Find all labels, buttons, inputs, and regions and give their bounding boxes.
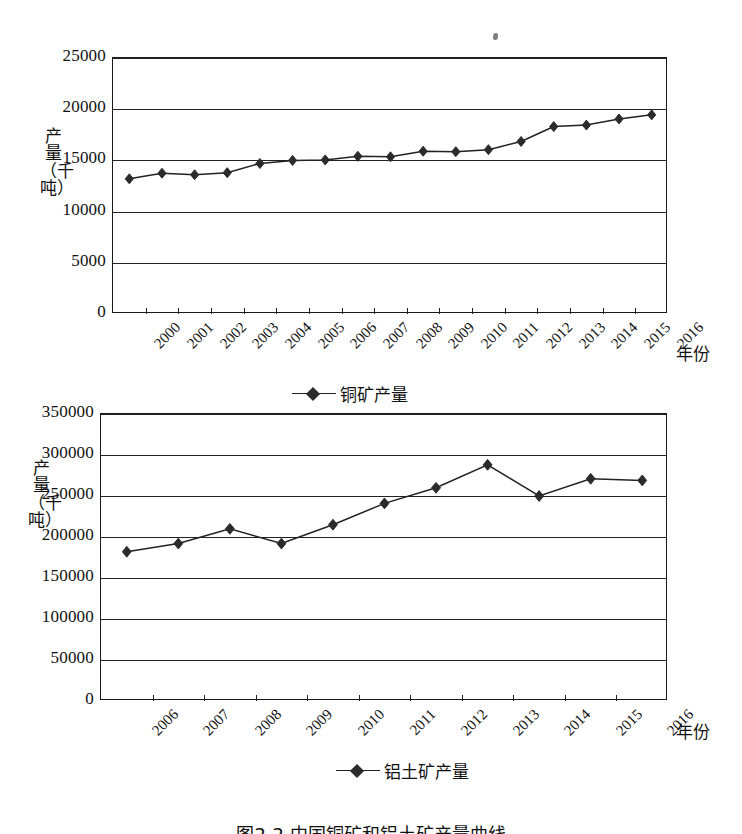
data-point-marker xyxy=(223,168,231,178)
data-point-marker xyxy=(535,491,544,502)
series-line xyxy=(129,115,651,179)
data-point-marker xyxy=(380,498,389,509)
x-axis-tick-label: 2006 xyxy=(347,319,380,352)
y-axis-tick-label: 0 xyxy=(0,302,106,322)
x-axis-tick-label: 2005 xyxy=(314,319,347,352)
data-point-marker xyxy=(638,475,647,486)
data-point-marker xyxy=(321,155,329,165)
x-axis-tick-label: 2013 xyxy=(576,319,609,352)
y-axis-tick-label: 0 xyxy=(0,689,94,709)
data-point-marker xyxy=(386,152,394,162)
data-point-marker xyxy=(174,538,183,549)
chart-copper-ore-production: 产量（千吨） 年份 铜矿产量 0500010000150002000025000… xyxy=(0,0,742,400)
x-axis-tick-label: 2008 xyxy=(412,319,445,352)
x-axis-tick-label: 2002 xyxy=(216,319,249,352)
x-axis-tick-label: 2007 xyxy=(200,706,233,739)
chart2-plot-area-wrapper xyxy=(100,413,667,700)
data-point-marker xyxy=(158,168,166,178)
chart2-plot-frame xyxy=(100,413,667,700)
data-point-marker xyxy=(225,523,234,534)
data-point-marker xyxy=(122,546,131,557)
x-axis-tick-label: 2009 xyxy=(445,319,478,352)
x-axis-tick-label: 2014 xyxy=(561,706,594,739)
x-axis-tick-label: 2011 xyxy=(510,319,543,352)
figure-caption: 图2-2 中国铜矿和铝土矿产量曲线 xyxy=(0,820,742,834)
y-axis-tick-label: 50000 xyxy=(0,648,94,668)
chart2-legend: 铝土矿产量 xyxy=(336,758,469,783)
y-axis-tick-label: 200000 xyxy=(0,525,94,545)
x-axis-tick-label: 2008 xyxy=(252,706,285,739)
data-point-marker xyxy=(288,155,296,165)
x-axis-tick-label: 2015 xyxy=(641,319,674,352)
y-axis-tick-label: 350000 xyxy=(0,402,94,422)
chart2-legend-label: 铝土矿产量 xyxy=(384,758,469,783)
x-axis-tick-label: 2009 xyxy=(303,706,336,739)
data-point-marker xyxy=(432,482,441,493)
y-axis-tick-label: 250000 xyxy=(0,484,94,504)
chart-bauxite-production: 产量（千吨） 年份 铝土矿产量 050000100000150000200000… xyxy=(0,400,742,800)
data-point-marker xyxy=(419,146,427,156)
y-axis-tick-label: 10000 xyxy=(0,200,106,220)
x-axis-tick-label: 2011 xyxy=(406,706,439,739)
x-axis-tick-label: 2012 xyxy=(458,706,491,739)
data-point-marker xyxy=(125,174,133,184)
x-axis-tick-label: 2003 xyxy=(249,319,282,352)
series-overlay xyxy=(101,414,668,701)
legend-diamond-marker-icon xyxy=(336,765,380,777)
x-axis-tick-label: 2012 xyxy=(543,319,576,352)
series-overlay xyxy=(113,58,668,314)
chart1-plot-frame xyxy=(112,57,667,313)
data-point-marker xyxy=(582,120,590,130)
y-axis-tick-label: 5000 xyxy=(0,251,106,271)
x-axis-tick-label: 2007 xyxy=(380,319,413,352)
y-axis-tick-label: 300000 xyxy=(0,443,94,463)
figure-page: 产量（千吨） 年份 铜矿产量 0500010000150002000025000… xyxy=(0,0,742,834)
data-point-marker xyxy=(452,147,460,157)
data-point-marker xyxy=(354,151,362,161)
data-point-marker xyxy=(191,170,199,180)
data-point-marker xyxy=(517,136,525,146)
y-axis-tick-label: 20000 xyxy=(0,97,106,117)
data-point-marker xyxy=(484,145,492,155)
y-axis-tick-label: 25000 xyxy=(0,46,106,66)
data-point-marker xyxy=(648,110,656,120)
y-axis-tick-label: 15000 xyxy=(0,148,106,168)
x-axis-tick-label: 2000 xyxy=(151,319,184,352)
y-axis-tick-label: 150000 xyxy=(0,566,94,586)
x-axis-tick-label: 2006 xyxy=(149,706,182,739)
x-axis-tick-label: 2004 xyxy=(282,319,315,352)
x-axis-tick-label: 2014 xyxy=(608,319,641,352)
x-axis-tick-label: 2015 xyxy=(612,706,645,739)
x-axis-tick-label: 2010 xyxy=(478,319,511,352)
data-point-marker xyxy=(277,538,286,549)
data-point-marker xyxy=(615,114,623,124)
data-point-marker xyxy=(586,473,595,484)
data-point-marker xyxy=(256,158,264,168)
x-axis-tick-label: 2013 xyxy=(509,706,542,739)
data-point-marker xyxy=(329,519,338,530)
data-point-marker xyxy=(483,459,492,470)
data-point-marker xyxy=(550,122,558,132)
x-axis-tick-label: 2001 xyxy=(184,319,217,352)
y-axis-tick-label: 100000 xyxy=(0,607,94,627)
chart1-plot-area-wrapper xyxy=(112,57,667,313)
legend-diamond-marker-icon xyxy=(292,388,336,400)
x-axis-tick-label: 2010 xyxy=(355,706,388,739)
